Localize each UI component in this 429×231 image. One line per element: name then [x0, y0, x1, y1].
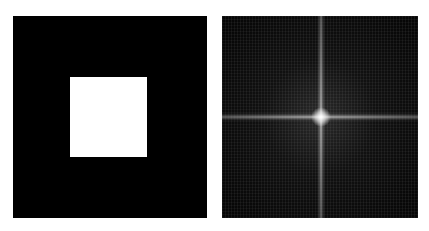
square-image-panel: [13, 16, 207, 218]
spectrum-dc-peak: [311, 107, 331, 127]
white-square: [70, 77, 147, 157]
fourier-spectrum-panel: [222, 16, 418, 218]
